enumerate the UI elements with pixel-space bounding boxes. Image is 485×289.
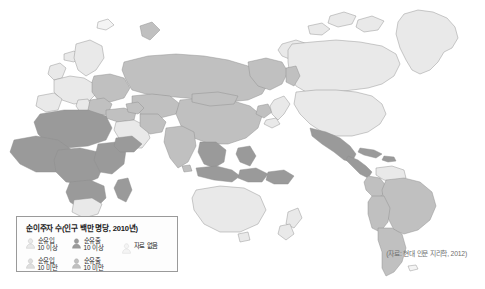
region-canada bbox=[288, 40, 400, 94]
person-bust-icon bbox=[26, 238, 35, 249]
region-india bbox=[164, 126, 196, 168]
region-australia bbox=[192, 186, 266, 232]
region-sri-lanka bbox=[182, 165, 192, 172]
legend-label-line2: 10 미만 bbox=[84, 264, 104, 271]
legend-item-spacer bbox=[122, 257, 170, 262]
region-novaya-zemlya bbox=[140, 22, 160, 40]
region-iberia bbox=[36, 93, 62, 112]
person-bust-icon bbox=[72, 258, 81, 269]
legend-item-label: 순유입 10 이상 bbox=[38, 237, 58, 252]
region-greenland bbox=[396, 10, 458, 74]
region-cuba bbox=[358, 148, 382, 158]
region-philippines bbox=[236, 146, 256, 166]
region-indonesia-1 bbox=[196, 166, 240, 182]
region-arctic-islands bbox=[328, 12, 356, 27]
person-bust-icon bbox=[72, 238, 81, 249]
region-sea-mainland bbox=[198, 142, 226, 168]
region-usa bbox=[294, 90, 386, 136]
person-bust-icon bbox=[26, 258, 35, 269]
region-arctic-islands-2 bbox=[356, 16, 384, 32]
legend-label-line2: 10 미만 bbox=[38, 264, 58, 271]
legend-item-no-data: 자료 없음 bbox=[122, 237, 170, 254]
no-data-swatch-icon bbox=[122, 243, 131, 254]
legend-rows: 순유입 10 이상 순유출 10 이상 bbox=[26, 237, 170, 272]
legend-item-net-inflow-low: 순유입 10 미만 bbox=[26, 257, 72, 272]
source-citation: (자료: 현대 인문 지리학, 2012) bbox=[386, 248, 467, 258]
region-peru-bolivia bbox=[368, 196, 390, 232]
region-indonesia-2 bbox=[238, 168, 268, 182]
legend-item-label: 순유출 10 이상 bbox=[84, 237, 104, 252]
legend-label-line2: 10 이상 bbox=[84, 244, 104, 251]
region-tasmania bbox=[238, 232, 250, 242]
region-arctic-islands-3 bbox=[308, 23, 330, 35]
legend-label-line2: 10 이상 bbox=[38, 244, 58, 251]
region-antarctica-hint bbox=[0, 284, 485, 289]
region-japan bbox=[270, 96, 290, 120]
region-svalbard bbox=[97, 19, 114, 30]
region-png bbox=[266, 170, 294, 184]
legend-item-label: 순유입 10 미만 bbox=[38, 257, 58, 272]
region-hispaniola bbox=[382, 156, 396, 162]
legend-item-label: 자료 없음 bbox=[134, 242, 159, 249]
legend-label-line1: 자료 없음 bbox=[134, 242, 159, 249]
legend-item-label: 순유출 10 미만 bbox=[84, 257, 104, 272]
region-falklands bbox=[408, 265, 418, 271]
region-eastern-europe bbox=[92, 74, 130, 102]
legend-row: 순유입 10 미만 순유출 10 미만 bbox=[26, 257, 170, 272]
region-scandinavia bbox=[74, 40, 104, 76]
region-madagascar bbox=[114, 178, 132, 202]
legend-title: 순이주자 수(인구 백만 명당, 2010년) bbox=[26, 222, 170, 233]
region-brazil bbox=[382, 178, 436, 234]
region-central-america bbox=[346, 156, 372, 178]
legend-item-net-outflow-high: 순유출 10 이상 bbox=[72, 237, 122, 252]
figure-root: 순이주자 수(인구 백만 명당, 2010년) 순유입 10 이상 bbox=[0, 0, 485, 289]
map-legend: 순이주자 수(인구 백만 명당, 2010년) 순유입 10 이상 bbox=[16, 216, 178, 272]
legend-item-net-outflow-low: 순유출 10 미만 bbox=[72, 257, 122, 272]
legend-row: 순유입 10 이상 순유출 10 이상 bbox=[26, 237, 170, 254]
legend-item-net-inflow-high: 순유입 10 이상 bbox=[26, 237, 72, 252]
